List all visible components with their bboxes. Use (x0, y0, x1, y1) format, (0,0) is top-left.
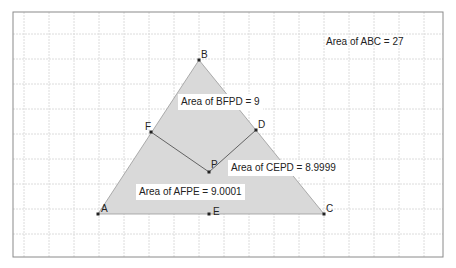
point-label-b: B (201, 49, 208, 61)
point-label-a: A (101, 203, 108, 215)
area-afpe-label: Area of AFPE = 9.0001 (136, 184, 245, 200)
point-label-d: D (258, 119, 265, 131)
point-label-p: P (211, 159, 218, 171)
area-bfpd-label: Area of BFPD = 9 (178, 94, 263, 110)
point-e[interactable] (208, 213, 211, 216)
point-label-c: C (326, 203, 333, 215)
area-cepd-label: Area of CEPD = 8.9999 (228, 160, 339, 176)
area-abc-label: Area of ABC = 27 (323, 34, 407, 50)
point-label-e: E (213, 206, 220, 218)
point-a[interactable] (97, 213, 100, 216)
point-label-f: F (145, 121, 151, 133)
